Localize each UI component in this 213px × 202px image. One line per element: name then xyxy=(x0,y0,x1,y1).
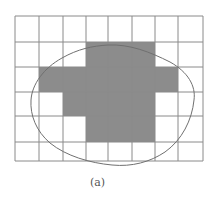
shaded-cell xyxy=(155,67,178,92)
shaded-cell xyxy=(132,116,155,142)
shaded-cell xyxy=(108,92,132,116)
shaded-cell xyxy=(132,67,155,92)
shaded-cell xyxy=(63,67,86,92)
shaded-cell xyxy=(132,42,155,67)
shaded-cell xyxy=(108,67,132,92)
grid-region-diagram xyxy=(0,0,213,202)
shaded-cell xyxy=(108,116,132,142)
shaded-cell xyxy=(132,92,155,116)
shaded-cell xyxy=(86,92,108,116)
figure-caption: (a) xyxy=(0,176,195,189)
shaded-cell xyxy=(86,116,108,142)
shaded-cell xyxy=(63,92,86,116)
shaded-cell xyxy=(86,67,108,92)
shaded-cell xyxy=(39,67,63,92)
